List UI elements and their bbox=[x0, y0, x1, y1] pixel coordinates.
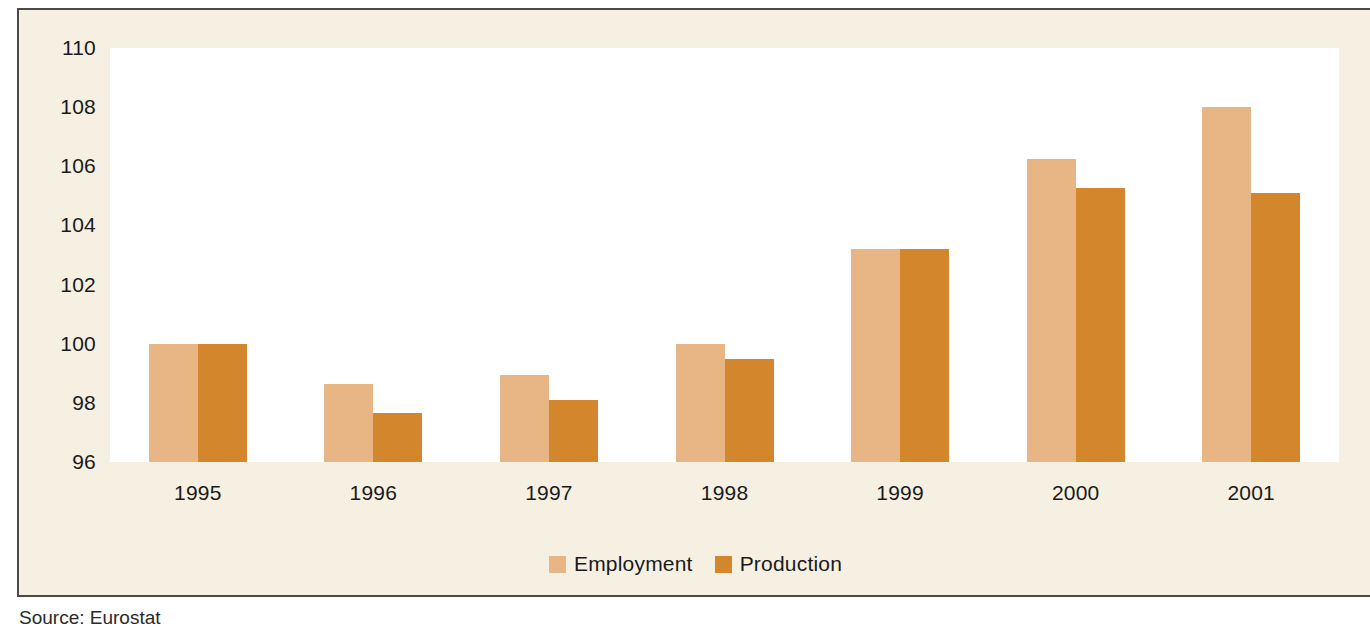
bar-employment-2000 bbox=[1027, 159, 1076, 462]
bar-production-2001 bbox=[1251, 193, 1300, 462]
y-axis-tick-label: 110 bbox=[62, 36, 96, 60]
bar-production-1998 bbox=[725, 359, 774, 463]
x-axis-tick-label-2001: 2001 bbox=[1163, 470, 1339, 516]
legend-label: Production bbox=[740, 552, 842, 576]
chart-figure: 1101081061041021009896 19951996199719981… bbox=[0, 0, 1370, 627]
bar-employment-2001 bbox=[1202, 107, 1251, 462]
legend-swatch-icon bbox=[549, 556, 566, 573]
bar-production-1996 bbox=[373, 413, 422, 462]
bar-group bbox=[461, 48, 637, 462]
legend-entry-production[interactable]: Production bbox=[715, 552, 842, 576]
bar-production-1995 bbox=[198, 344, 247, 462]
x-axis-tick-label-1999: 1999 bbox=[812, 470, 988, 516]
bar-production-1999 bbox=[900, 249, 949, 462]
x-axis-tick-label-2000: 2000 bbox=[988, 470, 1164, 516]
bar-employment-1997 bbox=[500, 375, 549, 462]
bar-group bbox=[1163, 48, 1339, 462]
y-axis-tick-label: 96 bbox=[72, 450, 96, 474]
y-axis-tick-label: 102 bbox=[60, 273, 96, 297]
y-axis: 1101081061041021009896 bbox=[19, 48, 104, 462]
bars-layer bbox=[110, 48, 1339, 462]
chart-legend: EmploymentProduction bbox=[19, 552, 1370, 576]
x-axis: 1995199619971998199920002001 bbox=[110, 470, 1339, 516]
x-axis-tick-label-1997: 1997 bbox=[461, 470, 637, 516]
source-note: Source: Eurostat bbox=[19, 607, 161, 627]
bar-production-2000 bbox=[1076, 188, 1125, 462]
bar-group bbox=[988, 48, 1164, 462]
bar-group bbox=[286, 48, 462, 462]
legend-entry-employment[interactable]: Employment bbox=[549, 552, 693, 576]
bar-group bbox=[812, 48, 988, 462]
bar-employment-1995 bbox=[149, 344, 198, 462]
chart-panel: 1101081061041021009896 19951996199719981… bbox=[17, 8, 1370, 597]
bar-employment-1998 bbox=[676, 344, 725, 462]
y-axis-tick-label: 104 bbox=[60, 213, 96, 237]
bar-production-1997 bbox=[549, 400, 598, 462]
bar-group bbox=[637, 48, 813, 462]
bar-employment-1996 bbox=[324, 384, 373, 462]
y-axis-tick-label: 108 bbox=[60, 95, 96, 119]
y-axis-tick-label: 100 bbox=[60, 332, 96, 356]
legend-label: Employment bbox=[574, 552, 693, 576]
x-axis-tick-label-1998: 1998 bbox=[637, 470, 813, 516]
x-axis-tick-label-1995: 1995 bbox=[110, 470, 286, 516]
legend-swatch-icon bbox=[715, 556, 732, 573]
x-axis-tick-label-1996: 1996 bbox=[286, 470, 462, 516]
bar-group bbox=[110, 48, 286, 462]
y-axis-tick-label: 98 bbox=[72, 391, 96, 415]
y-axis-tick-label: 106 bbox=[60, 154, 96, 178]
bar-employment-1999 bbox=[851, 249, 900, 462]
